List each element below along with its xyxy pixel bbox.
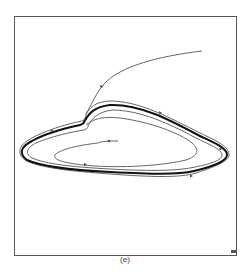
incoming-trajectory-outside bbox=[86, 51, 202, 114]
arrow-icon bbox=[190, 175, 193, 178]
phase-portrait-diagram bbox=[0, 0, 250, 272]
plot-frame bbox=[15, 17, 237, 256]
arrow-icon bbox=[107, 140, 110, 143]
inner-spiral-trajectory bbox=[55, 117, 197, 166]
corner-mark bbox=[231, 250, 236, 253]
figure-caption: (e) bbox=[0, 255, 250, 264]
